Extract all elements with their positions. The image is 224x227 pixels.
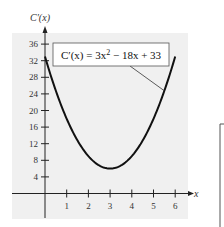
x-tick-label: 2 <box>86 201 91 211</box>
x-tick-label: 1 <box>64 201 69 211</box>
x-tick-label: 6 <box>173 201 178 211</box>
y-axis-title: C′(x) <box>30 12 51 24</box>
y-tick-label: 16 <box>29 122 39 132</box>
y-tick-label: 8 <box>34 155 39 165</box>
x-tick-label: 4 <box>130 201 135 211</box>
y-tick-label: 24 <box>29 89 39 99</box>
x-axis-title: x <box>193 188 199 199</box>
y-tick-label: 28 <box>29 72 39 82</box>
y-tick-label: 32 <box>29 56 38 66</box>
chart: 1234564812162024283236 C′(x) = 3x2 − 18x… <box>0 0 224 227</box>
x-tick-label: 3 <box>108 201 113 211</box>
annotation-text: C′(x) = 3x2 − 18x + 33 <box>61 48 162 62</box>
y-tick-label: 12 <box>29 139 38 149</box>
y-axis-arrow <box>43 26 48 33</box>
y-tick-label: 36 <box>29 39 39 49</box>
y-tick-label: 20 <box>29 106 39 116</box>
x-tick-label: 5 <box>151 201 156 211</box>
y-tick-label: 4 <box>34 172 39 182</box>
adjacent-box-edge <box>220 124 224 227</box>
